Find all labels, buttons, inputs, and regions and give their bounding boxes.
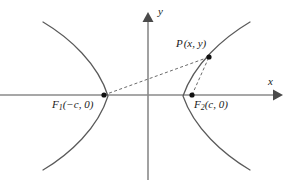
y-axis-label-text: y — [158, 5, 163, 17]
x-axis-arrowhead — [273, 90, 283, 101]
focus-2-coords: (c, 0) — [205, 98, 228, 110]
focus-2-label: F2(c, 0) — [194, 99, 228, 112]
x-axis-label: x — [268, 76, 273, 87]
hyperbola-figure: y x P (x, y) F1(−c, 0) F2(c, 0) — [0, 0, 287, 185]
y-axis-label: y — [158, 6, 163, 17]
figure-canvas — [0, 0, 287, 185]
focal-ray-f2-to-p — [192, 57, 209, 95]
hyperbola-left-branch — [43, 22, 108, 170]
focus-1-dot — [101, 92, 106, 97]
point-p-label: P (x, y) — [176, 38, 206, 49]
point-p-name: P — [176, 37, 183, 49]
focus-2-name: F — [194, 98, 201, 110]
focus-1-coords: (−c, 0) — [63, 98, 94, 110]
focus-2-dot — [189, 92, 194, 97]
focal-ray-f1-to-p — [104, 57, 209, 95]
point-p-coords: (x, y) — [184, 37, 207, 49]
focus-1-name: F — [52, 98, 59, 110]
focus-1-label: F1(−c, 0) — [52, 99, 93, 112]
point-p-dot — [206, 54, 211, 59]
y-axis-arrowhead — [143, 12, 154, 22]
x-axis-label-text: x — [268, 75, 273, 87]
